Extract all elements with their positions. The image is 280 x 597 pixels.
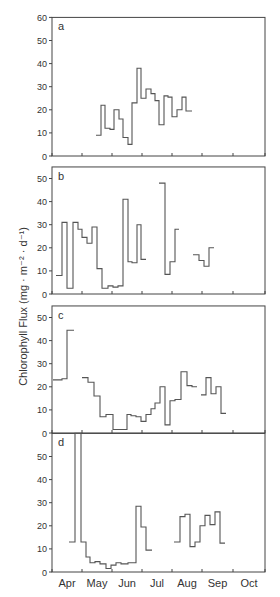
flux-series: [69, 433, 225, 568]
y-tick-label: 10: [37, 405, 47, 415]
flux-series: [56, 183, 214, 288]
y-tick-label: 50: [37, 452, 47, 462]
x-tick-label-may: May: [87, 577, 108, 589]
panel-frame: [52, 433, 265, 572]
panel-b: b01020304050: [37, 167, 265, 300]
y-tick-label: 30: [37, 498, 47, 508]
y-tick-label: 40: [37, 336, 47, 346]
y-axis-label: Chlorophyll Flux (mg · m⁻² · d⁻¹): [17, 222, 30, 392]
panel-label: a: [58, 20, 65, 32]
y-tick-label: 40: [37, 197, 47, 207]
y-tick-label: 30: [37, 359, 47, 369]
y-tick-label: 40: [37, 475, 47, 485]
y-tick-label: 40: [37, 59, 47, 69]
chlorophyll-flux-figure: a0102030405060b01020304050c01020304050d0…: [0, 0, 280, 597]
y-tick-label: 50: [37, 313, 47, 323]
panel-label: d: [58, 436, 64, 448]
panel-frame: [52, 306, 265, 433]
y-tick-label: 50: [37, 174, 47, 184]
x-tick-label-oct: Oct: [240, 577, 257, 589]
y-tick-label: 20: [37, 382, 47, 392]
y-tick-label: 60: [37, 13, 47, 23]
y-tick-label: 10: [37, 544, 47, 554]
x-tick-label-aug: Aug: [177, 577, 197, 589]
panel-label: c: [58, 309, 64, 321]
y-tick-label: 0: [42, 568, 47, 578]
y-tick-label: 30: [37, 82, 47, 92]
y-tick-label: 20: [37, 521, 47, 531]
x-tick-label-jul: Jul: [150, 577, 164, 589]
panel-a: a0102030405060: [37, 13, 265, 162]
x-tick-label-jun: Jun: [118, 577, 136, 589]
panel-d: d01020304050: [37, 433, 265, 577]
panel-frame: [52, 17, 265, 156]
x-tick-label-apr: Apr: [58, 577, 75, 589]
x-tick-label-sep: Sep: [208, 577, 228, 589]
y-tick-label: 0: [42, 152, 47, 162]
flux-series: [53, 330, 226, 429]
y-tick-label: 20: [37, 105, 47, 115]
panel-label: b: [58, 170, 64, 182]
y-tick-label: 10: [37, 266, 47, 276]
y-tick-label: 10: [37, 128, 47, 138]
panel-c: c01020304050: [37, 306, 265, 439]
y-tick-label: 50: [37, 36, 47, 46]
y-tick-label: 0: [42, 290, 47, 300]
panel-frame: [52, 167, 265, 294]
y-tick-label: 0: [42, 429, 47, 439]
y-tick-label: 30: [37, 220, 47, 230]
y-tick-label: 20: [37, 243, 47, 253]
flux-series: [96, 68, 192, 144]
